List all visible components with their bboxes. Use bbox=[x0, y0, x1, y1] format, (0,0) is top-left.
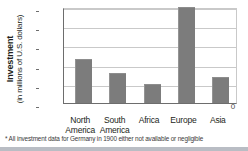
y-axis-title: Investment (in millions of U.S. dollars) bbox=[0, 3, 30, 115]
x-axis-label-line: Asia bbox=[201, 116, 235, 126]
y-axis-tick-mark bbox=[36, 11, 39, 12]
x-axis-label-line: Africa bbox=[132, 116, 166, 126]
y-axis-tick-mark bbox=[36, 30, 39, 31]
y-axis-tick-mark bbox=[36, 69, 39, 70]
bar-africa bbox=[144, 84, 161, 103]
x-axis-label-africa: Africa bbox=[132, 116, 166, 126]
y-axis-title-primary: Investment bbox=[5, 36, 15, 83]
bar-south-america bbox=[109, 73, 126, 103]
bar-north-america bbox=[75, 59, 92, 103]
chart-footnote: * All investment data for Germany in 190… bbox=[5, 135, 245, 143]
y-axis-tick-mark bbox=[36, 88, 39, 89]
x-axis-label-line: America bbox=[63, 126, 97, 136]
y-axis-tick-label: 0 bbox=[215, 103, 239, 111]
bars-layer bbox=[64, 9, 236, 103]
chart-figure: Investment (in millions of U.S. dollars)… bbox=[0, 0, 248, 151]
x-axis-labels: NorthAmericaSouthAmericaAfricaEuropeAsia bbox=[63, 116, 239, 136]
x-axis-label-europe: Europe bbox=[166, 116, 200, 126]
y-axis-tick-mark bbox=[36, 49, 39, 50]
bar-europe bbox=[178, 7, 195, 103]
bottom-strip bbox=[0, 147, 248, 151]
x-axis-label-asia: Asia bbox=[201, 116, 235, 126]
x-axis-label-line: Europe bbox=[166, 116, 200, 126]
x-axis-label-south-america: SouthAmerica bbox=[97, 116, 131, 135]
y-axis-title-units: (in millions of U.S. dollars) bbox=[15, 15, 25, 104]
plot-wrapper: 05001,0001,5002,0002,500 bbox=[39, 5, 239, 115]
plot-area bbox=[63, 8, 237, 104]
x-axis-label-north-america: NorthAmerica bbox=[63, 116, 97, 135]
y-axis-tick-mark bbox=[36, 107, 39, 108]
x-axis-label-line: America bbox=[97, 126, 131, 136]
bar-asia bbox=[212, 77, 229, 103]
